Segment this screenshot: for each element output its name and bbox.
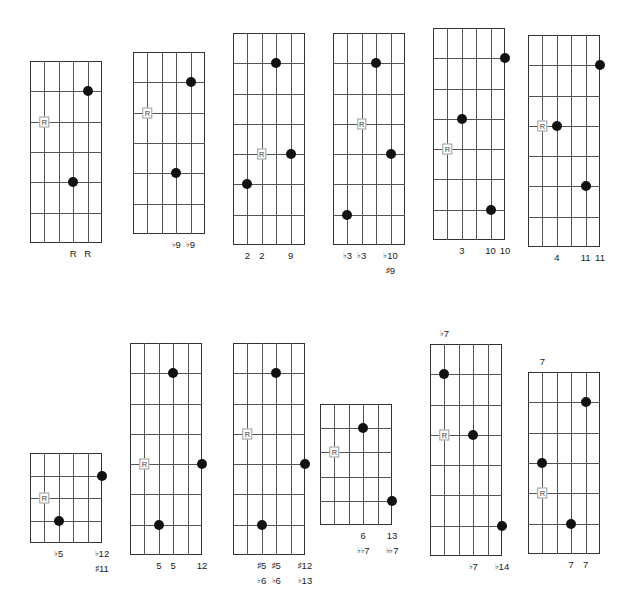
string-line — [447, 28, 448, 240]
interval-label: ♭14 — [495, 561, 509, 572]
fretboard-diagram-sheet: RRRR♭9♭9R229R♭3♭3♭10♯9R31010R41111R♭5♭12… — [0, 0, 627, 600]
enharmonic-label: ♭♭7 — [386, 545, 399, 556]
note-dot — [497, 521, 507, 531]
note-dot — [257, 520, 267, 530]
fret-line — [133, 143, 205, 144]
fret-line — [233, 404, 305, 405]
root-marker: R — [257, 149, 266, 160]
fret-line — [430, 495, 502, 496]
interval-number: 5 — [58, 548, 63, 559]
interval-number: R — [84, 248, 91, 259]
note-dot — [197, 459, 207, 469]
string-line — [391, 33, 392, 245]
interval-label: ♭9 — [186, 239, 195, 250]
fret-line — [130, 434, 202, 435]
interval-label: 11 — [595, 252, 605, 263]
interval-label: ♭5 — [54, 548, 63, 559]
interval-label: 7 — [569, 559, 574, 570]
interval-number: 12 — [99, 548, 110, 559]
note-dot — [97, 471, 107, 481]
root-marker: R — [40, 493, 49, 504]
fretboard-grid: R — [528, 35, 600, 247]
fret-line — [30, 521, 102, 522]
string-line — [334, 404, 335, 525]
fret-line — [433, 89, 505, 90]
note-dot — [271, 58, 281, 68]
interval-label: ♭12 — [95, 548, 109, 559]
string-line — [262, 33, 263, 245]
grid-frame — [130, 343, 202, 555]
interval-number: 10 — [500, 245, 511, 256]
note-dot — [386, 149, 396, 159]
note-dot — [186, 77, 196, 87]
fret-line — [133, 204, 205, 205]
fret-line — [430, 465, 502, 466]
root-marker: R — [143, 107, 152, 118]
note-dot — [286, 149, 296, 159]
root-marker: R — [538, 488, 547, 499]
fret-line — [333, 94, 405, 95]
note-dot — [457, 114, 467, 124]
interval-number: 6 — [261, 575, 266, 586]
enharmonic-label: ♭6 — [272, 575, 281, 586]
fret-line — [528, 96, 600, 97]
fret-line — [233, 124, 305, 125]
interval-number: 3 — [347, 250, 352, 261]
fret-line — [130, 404, 202, 405]
fretboard-grid: R — [30, 453, 102, 543]
string-line — [542, 35, 543, 247]
interval-label: 3 — [459, 245, 464, 256]
note-dot — [581, 181, 591, 191]
note-dot — [500, 53, 510, 63]
string-line — [291, 33, 292, 245]
fret-line — [130, 373, 202, 374]
interval-label: R — [70, 248, 77, 259]
fret-line — [30, 476, 102, 477]
fretboard-grid: R — [133, 52, 205, 234]
interval-label: 10 — [485, 245, 496, 256]
interval-label: 6 — [361, 530, 366, 541]
interval-label: ♯5 — [272, 560, 281, 571]
fretboard-grid: R — [233, 343, 305, 555]
string-line — [144, 343, 145, 555]
fret-line — [233, 215, 305, 216]
interval-label: ♭3 — [343, 250, 352, 261]
fretboard-grid: R — [30, 61, 102, 243]
string-line — [488, 344, 489, 556]
note-dot — [468, 430, 478, 440]
fret-line — [433, 58, 505, 59]
interval-number: 2 — [245, 250, 250, 261]
fret-line — [528, 524, 600, 525]
fretboard-grid: R — [233, 33, 305, 245]
interval-label: ♭9 — [172, 239, 181, 250]
interval-label: ♯12 — [298, 560, 312, 571]
root-marker: R — [330, 447, 339, 458]
string-line — [378, 404, 379, 525]
interval-label: 12 — [197, 560, 208, 571]
enharmonic-label: ♯11 — [95, 563, 109, 574]
interval-label: 9 — [288, 250, 293, 261]
interval-number: 7 — [364, 545, 369, 556]
interval-number: 12 — [302, 560, 313, 571]
interval-number: 9 — [288, 250, 293, 261]
fret-line — [233, 494, 305, 495]
string-line — [247, 343, 248, 555]
string-line — [363, 404, 364, 525]
interval-label: R — [84, 248, 91, 259]
interval-label: 5 — [156, 560, 161, 571]
interval-number: 6 — [275, 575, 280, 586]
interval-label: 2 — [259, 250, 264, 261]
interval-number: 7 — [540, 356, 545, 367]
string-line — [462, 28, 463, 240]
root-marker: R — [538, 120, 547, 131]
note-dot — [358, 423, 368, 433]
note-dot — [439, 369, 449, 379]
grid-frame — [233, 343, 305, 555]
interval-number: R — [70, 248, 77, 259]
fret-line — [30, 182, 102, 183]
note-dot — [271, 368, 281, 378]
note-dot — [300, 459, 310, 469]
root-marker: R — [40, 116, 49, 127]
interval-number: 11 — [99, 563, 109, 574]
interval-label: ♯5 — [257, 560, 266, 571]
